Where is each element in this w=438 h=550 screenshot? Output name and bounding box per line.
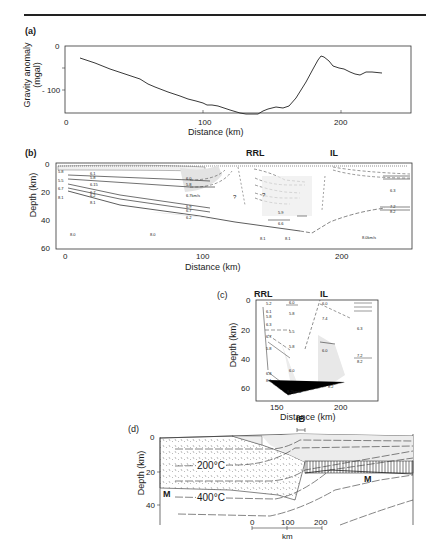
svg-text:?: ? [233,194,237,200]
svg-text:6.7: 6.7 [58,186,64,191]
svg-text:5.8: 5.8 [90,175,96,180]
svg-text:5.5: 5.5 [289,329,295,334]
svg-text:8.1: 8.1 [285,236,291,241]
scale-unit: km [282,532,293,541]
svg-text:6.0: 6.0 [289,300,295,305]
c-ytick-60: 60 [241,384,250,393]
panel-c-ylabel: Depth (km) [228,315,238,375]
panel-b-xlabel: Distance (km) [185,262,241,272]
svg-text:5.8: 5.8 [289,311,295,316]
isotherm-400: 400°C [196,492,226,503]
moho-label-right: M [364,474,372,484]
svg-text:8.1: 8.1 [266,378,272,383]
c-ytick-0: 0 [246,296,250,305]
c-xtick-150: 150 [270,403,283,412]
svg-text:5.5: 5.5 [58,178,64,183]
svg-text:8.1: 8.1 [58,195,64,200]
svg-text:6.2: 6.2 [90,193,96,198]
svg-text:8.1: 8.1 [90,200,96,205]
marker-rrl: RRL [246,148,265,158]
svg-text:7.2: 7.2 [357,353,363,358]
d-ytick-0: 0 [150,433,154,442]
svg-text:6.8: 6.8 [266,371,272,376]
scale-100: 100 [281,518,294,527]
panel-d-ylabel: Depth (km) [136,438,146,508]
svg-text:6.7: 6.7 [186,208,192,213]
b-ytick-0: 0 [45,160,49,169]
svg-text:5.9: 5.9 [278,210,284,215]
b-ytick-40: 40 [41,216,50,225]
svg-text:6.7: 6.7 [266,334,272,339]
c-marker-il: IL [320,289,328,299]
panel-b-label: (b) [25,148,37,158]
panel-d-label: (d) [128,424,139,434]
c-xtick-200: 200 [334,403,347,412]
svg-text:5.2: 5.2 [266,301,272,306]
b-xtick-200: 200 [335,252,348,261]
svg-text:6.15: 6.15 [90,182,99,187]
svg-text:8.2: 8.2 [390,209,396,214]
svg-text:6.0: 6.0 [289,368,295,373]
moho-label-left: M [163,489,171,499]
panel-b-ylabel: Depth (km) [28,165,38,225]
svg-text:7.4: 7.4 [322,316,328,321]
svg-text:5.8: 5.8 [186,182,192,187]
svg-text:8.1: 8.1 [260,236,266,241]
svg-text:6.3: 6.3 [357,326,363,331]
svg-text:6.0: 6.0 [186,176,192,181]
b-ytick-60: 60 [41,244,50,253]
marker-ib: IB [296,414,305,424]
scale-200: 200 [314,518,327,527]
svg-text:5.8: 5.8 [266,314,272,319]
b-xtick-100: 100 [196,252,209,261]
b-xtick-0: 0 [63,252,67,261]
scale-0: 0 [250,518,254,527]
svg-text:6.0: 6.0 [322,348,328,353]
svg-text:5.8: 5.8 [289,344,295,349]
svg-text:8.2: 8.2 [357,359,363,364]
svg-text:8.0km/s: 8.0km/s [362,235,376,240]
svg-text:6.2: 6.2 [186,215,192,220]
svg-text:8.0: 8.0 [70,232,76,237]
svg-text:8.2: 8.2 [328,384,334,389]
panel-c-xlabel: Distance (km) [280,412,336,422]
c-ytick-20: 20 [241,326,250,335]
c-ytick-40: 40 [241,355,250,364]
svg-text:8.0: 8.0 [150,232,156,237]
svg-text:5.8: 5.8 [266,346,272,351]
svg-text:5.8: 5.8 [58,169,64,174]
svg-text:6.3: 6.3 [266,322,272,327]
c-marker-rrl: RRL [254,289,273,299]
svg-text:6.3: 6.3 [390,188,396,193]
b-ytick-20: 20 [41,188,50,197]
marker-il: IL [330,148,338,158]
panel-c-label: (c) [217,290,228,300]
svg-text:8.2km/s: 8.2km/s [287,389,301,394]
d-ytick-20: 20 [146,468,155,477]
isotherm-200: 200°C [196,460,226,471]
d-ytick-40: 40 [146,501,155,510]
svg-text:6.7km/s: 6.7km/s [186,193,200,198]
svg-text:6.0: 6.0 [322,301,328,306]
svg-text:6.6: 6.6 [278,221,284,226]
